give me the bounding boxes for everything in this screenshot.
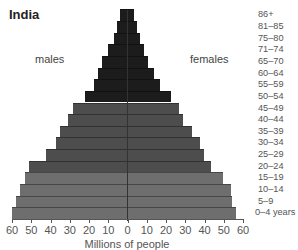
bar-male xyxy=(12,207,127,219)
bar-male xyxy=(16,196,127,208)
bar-female xyxy=(127,184,231,196)
age-group-label: 55–59 xyxy=(258,79,284,90)
bar-male xyxy=(29,161,127,173)
zero-line xyxy=(127,10,128,221)
bar-female xyxy=(127,79,160,91)
bar-male xyxy=(20,184,127,196)
x-tick-label: 60 xyxy=(6,224,18,236)
age-group-label: 40–44 xyxy=(258,114,284,125)
x-tick xyxy=(166,219,167,223)
bar-male xyxy=(120,9,127,21)
x-tick-label: 50 xyxy=(25,224,37,236)
bar-female xyxy=(127,91,171,103)
bar-male xyxy=(68,114,127,126)
age-group-label: 65–70 xyxy=(258,56,284,67)
x-tick-label: 10 xyxy=(141,224,153,236)
bar-female xyxy=(127,9,134,21)
age-group-label: 10–14 xyxy=(258,184,284,195)
bar-female xyxy=(127,33,140,45)
x-tick-label: 40 xyxy=(44,224,56,236)
bar-male xyxy=(108,44,127,56)
bar-male xyxy=(102,56,127,68)
age-group-label: 45–49 xyxy=(258,103,284,114)
bar-female xyxy=(127,207,236,219)
x-tick xyxy=(185,219,186,223)
x-tick-label: 0 xyxy=(124,224,130,236)
bar-male xyxy=(60,126,127,138)
bar-male xyxy=(114,33,127,45)
age-group-label: 86+ xyxy=(258,9,274,20)
bar-female xyxy=(127,172,223,184)
x-tick xyxy=(128,219,129,223)
bar-male xyxy=(117,21,127,33)
x-tick xyxy=(70,219,71,223)
age-group-label: 50–54 xyxy=(258,91,284,102)
x-tick xyxy=(31,219,32,223)
age-group-label: 60–64 xyxy=(258,68,284,79)
age-group-label: 0–4 years xyxy=(255,207,295,218)
bar-male xyxy=(25,172,127,184)
age-group-label: 5–9 xyxy=(258,196,273,207)
bar-male xyxy=(46,149,127,161)
x-tick-label: 30 xyxy=(179,224,191,236)
x-tick-label: 20 xyxy=(83,224,95,236)
bar-female xyxy=(127,114,183,126)
bar-male xyxy=(85,91,127,103)
x-tick-label: 30 xyxy=(64,224,76,236)
age-group-label: 30–34 xyxy=(258,137,284,148)
bar-female xyxy=(127,126,192,138)
x-tick xyxy=(224,219,225,223)
bar-female xyxy=(127,44,144,56)
bar-male xyxy=(56,137,127,149)
age-group-label: 35–39 xyxy=(258,126,284,137)
x-tick xyxy=(89,219,90,223)
bar-female xyxy=(127,103,179,115)
x-tick-label: 50 xyxy=(218,224,230,236)
x-tick xyxy=(108,219,109,223)
bar-female xyxy=(127,137,200,149)
x-tick xyxy=(243,219,244,223)
x-tick-label: 10 xyxy=(102,224,114,236)
bar-female xyxy=(127,161,211,173)
x-axis-label: Millions of people xyxy=(85,238,170,250)
age-group-label: 81–85 xyxy=(258,21,284,32)
bar-female xyxy=(127,196,232,208)
bar-female xyxy=(127,21,137,33)
age-group-label: 15–19 xyxy=(258,172,284,183)
bar-female xyxy=(127,68,154,80)
bar-male xyxy=(94,79,127,91)
bar-female xyxy=(127,56,148,68)
x-tick xyxy=(12,219,13,223)
age-group-label: 25–29 xyxy=(258,149,284,160)
x-tick xyxy=(147,219,148,223)
bar-male xyxy=(73,103,127,115)
x-tick xyxy=(51,219,52,223)
age-group-label: 20–24 xyxy=(258,161,284,172)
age-group-label: 71–74 xyxy=(258,44,284,55)
bar-male xyxy=(98,68,127,80)
bar-female xyxy=(127,149,204,161)
x-tick-label: 60 xyxy=(237,224,249,236)
x-tick-label: 40 xyxy=(198,224,210,236)
x-tick xyxy=(205,219,206,223)
age-group-label: 75–80 xyxy=(258,33,284,44)
x-tick-label: 20 xyxy=(160,224,172,236)
